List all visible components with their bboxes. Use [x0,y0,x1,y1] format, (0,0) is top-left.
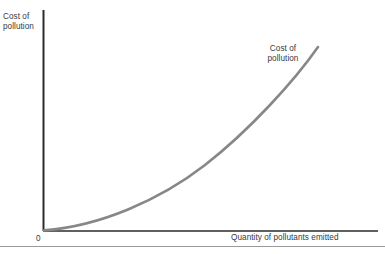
figure-bottom-rule [0,246,385,247]
chart-canvas [0,0,385,254]
x-axis-title: Quantity of pollutants emitted [231,233,381,243]
cost-of-pollution-curve [44,47,318,230]
pollution-cost-figure: Cost of pollution Cost of pollution Quan… [0,0,385,254]
curve-annotation-label: Cost of pollution [253,44,313,65]
y-axis-title: Cost of pollution [3,12,41,33]
origin-tick-label: 0 [36,234,48,244]
